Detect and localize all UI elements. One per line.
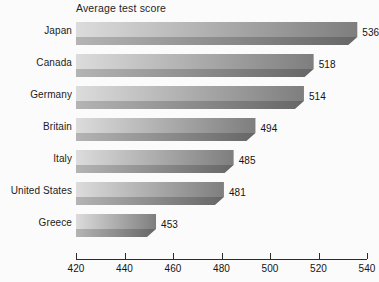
bar: [76, 150, 236, 173]
x-axis-tick: [270, 253, 271, 259]
bar-row: United States481: [0, 182, 375, 214]
bar: [76, 86, 306, 109]
x-axis-tick: [173, 253, 174, 259]
x-axis: 420440460480500520540: [0, 250, 375, 282]
bar-row: Italy485: [0, 150, 375, 182]
plot-area: Japan536Canada518Germany514Britain494Ita…: [0, 22, 375, 250]
bar: [76, 214, 158, 237]
x-axis-tick-label: 440: [116, 263, 133, 274]
bar-category-label: Germany: [0, 89, 72, 100]
bar-value-label: 494: [260, 123, 277, 134]
bar-category-label: Canada: [0, 57, 72, 68]
x-axis-tick: [367, 253, 368, 259]
bar-category-label: United States: [0, 185, 72, 196]
bar: [76, 54, 316, 77]
x-axis-tick: [319, 253, 320, 259]
bar: [76, 22, 359, 45]
bar-value-label: 453: [161, 219, 178, 230]
x-axis-line: [76, 259, 367, 260]
bar-category-label: Greece: [0, 217, 72, 228]
bar-value-label: 481: [229, 187, 246, 198]
bar-value-label: 485: [239, 155, 256, 166]
x-axis-tick-label: 460: [165, 263, 182, 274]
x-axis-tick-label: 480: [213, 263, 230, 274]
bar-value-label: 536: [362, 27, 379, 38]
x-axis-tick: [125, 253, 126, 259]
x-axis-tick-label: 540: [359, 263, 376, 274]
x-axis-tick-label: 520: [310, 263, 327, 274]
x-axis-tick: [76, 253, 77, 259]
bar-row: Britain494: [0, 118, 375, 150]
x-axis-tick-label: 500: [262, 263, 279, 274]
bar: [76, 182, 226, 205]
x-axis-tick: [222, 253, 223, 259]
bar-value-label: 518: [319, 59, 336, 70]
chart-title: Average test score: [76, 2, 166, 14]
bar-row: Canada518: [0, 54, 375, 86]
bar-row: Japan536: [0, 22, 375, 54]
bar-category-label: Italy: [0, 153, 72, 164]
bar-category-label: Japan: [0, 25, 72, 36]
bar-row: Greece453: [0, 214, 375, 246]
x-axis-tick-label: 420: [68, 263, 85, 274]
bar-category-label: Britain: [0, 121, 72, 132]
bar-row: Germany514: [0, 86, 375, 118]
bar-value-label: 514: [309, 91, 326, 102]
bar: [76, 118, 257, 141]
